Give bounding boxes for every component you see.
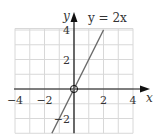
y-axis-arrow-icon	[71, 12, 78, 22]
line-chart: −4−224−224 x y y = 2x	[0, 0, 156, 139]
y-tick-label: −2	[54, 113, 70, 126]
y-tick-label: 4	[63, 24, 70, 37]
equation-label: y = 2x	[87, 11, 127, 25]
x-tick-label: 4	[130, 94, 137, 107]
x-axis-label: x	[146, 91, 153, 105]
y-axis-label: y	[62, 9, 70, 23]
x-tick-label: −2	[36, 94, 52, 107]
y-tick-label: 2	[63, 54, 70, 67]
x-tick-label: −4	[7, 94, 23, 107]
x-tick-label: 2	[100, 94, 107, 107]
